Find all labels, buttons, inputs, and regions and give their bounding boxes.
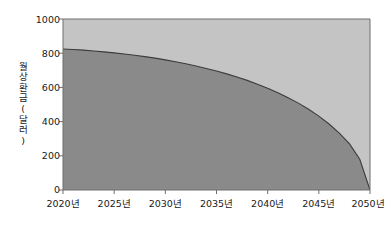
y-tick-label-1000: 1000 [30, 14, 60, 25]
y-axis-tick-labels: 1000 800 600 400 200 0 [26, 0, 60, 226]
x-tick-label-2035: 2035년 [200, 196, 233, 210]
y-tick-label-200: 200 [30, 150, 60, 161]
y-tick-label-600: 600 [30, 82, 60, 93]
x-tick-label-2020: 2020년 [46, 196, 79, 210]
x-axis-ticks [63, 190, 370, 194]
x-tick-label-2050: 2050년 [351, 196, 384, 210]
x-tick-label-2030: 2030년 [149, 196, 182, 210]
x-tick-label-2045: 2045년 [302, 196, 335, 210]
y-axis-title-char-7: ) [21, 136, 25, 147]
y-tick-label-0: 0 [30, 184, 60, 195]
x-axis-tick-labels: 2020년 2025년 2030년 2035년 2040년 2045년 2050… [0, 196, 390, 216]
y-tick-label-400: 400 [30, 116, 60, 127]
x-tick-label-2025: 2025년 [98, 196, 131, 210]
x-tick-label-2040: 2040년 [251, 196, 284, 210]
y-tick-label-800: 800 [30, 48, 60, 59]
chart-figure: 월 상 환 금 ( 달 러 ) 1000 800 600 400 200 0 [0, 0, 390, 226]
